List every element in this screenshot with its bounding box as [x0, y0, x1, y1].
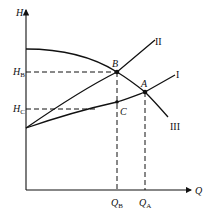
curve-1-label: I — [176, 69, 179, 80]
point-a-label: A — [140, 78, 148, 89]
hc-tick-label: HC — [12, 103, 25, 116]
qa-tick-label: QA — [139, 197, 151, 210]
point-b-label: B — [112, 58, 118, 69]
point-a-marker — [143, 90, 148, 95]
pipe-curve-1 — [26, 75, 175, 128]
pump-pipe-characteristic-diagram: H Q B A C II I III HB HC QB QA — [0, 0, 209, 217]
hb-tick-label: HB — [12, 66, 25, 79]
point-b-marker — [115, 70, 120, 75]
point-c-label: C — [120, 106, 127, 117]
x-axis-label: Q — [195, 185, 203, 196]
point-c-marker — [115, 100, 119, 104]
curve-2-label: II — [155, 36, 162, 47]
curve-3-label: III — [170, 121, 180, 132]
qb-tick-label: QB — [111, 197, 123, 210]
y-axis-label: H — [15, 7, 24, 18]
